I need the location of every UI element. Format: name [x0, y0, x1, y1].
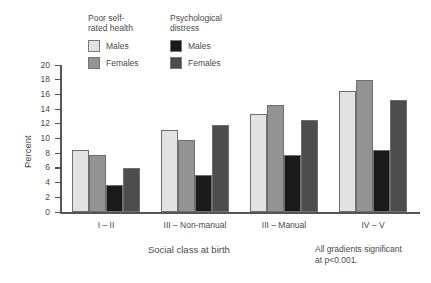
y-axis-tick [55, 65, 60, 66]
y-axis-tick-label: 18 [34, 75, 50, 84]
legend-swatch-psy-males [170, 40, 182, 52]
bar [89, 155, 106, 212]
bar [161, 130, 178, 212]
y-axis-tick [55, 212, 60, 213]
bar [373, 150, 390, 212]
y-axis-line [60, 65, 62, 213]
x-axis-title: Social class at birth [148, 244, 230, 255]
y-axis-tick [55, 167, 60, 168]
y-axis-tick-label: 14 [34, 105, 50, 114]
bar [356, 80, 373, 212]
bar [178, 140, 195, 212]
y-axis-tick [55, 182, 60, 183]
legend-entry-psy-males: Males [170, 39, 222, 52]
legend-label-srh-females: Females [106, 57, 139, 69]
y-axis-tick-label: 8 [34, 149, 50, 158]
y-axis-tick [55, 197, 60, 198]
bar [106, 185, 123, 212]
y-axis-tick [55, 94, 60, 95]
y-axis-tick-label: 16 [34, 90, 50, 99]
legend-swatch-psy-females [170, 57, 182, 69]
bar [267, 105, 284, 212]
legend-label-psy-males: Males [188, 40, 211, 52]
y-axis-tick-label: 20 [34, 61, 50, 70]
y-axis-tick [55, 153, 60, 154]
legend-block-psychological-distress: Psychological distress Males Females [170, 14, 222, 73]
y-axis-tick-label: 10 [34, 134, 50, 143]
bar [123, 168, 140, 212]
legend-swatch-srh-males [88, 40, 100, 52]
y-axis-tick-label: 2 [34, 193, 50, 202]
bar [339, 91, 356, 212]
legend-entry-psy-females: Females [170, 56, 222, 69]
x-axis-group-label: IV – V [313, 221, 431, 230]
bar [390, 100, 407, 212]
legend-entry-srh-females: Females [88, 56, 139, 69]
y-axis-tick [55, 109, 60, 110]
bar [250, 114, 267, 212]
bar [284, 155, 301, 212]
y-axis-tick [55, 123, 60, 124]
legend-block-poor-self-rated-health: Poor self- rated health Males Females [88, 14, 139, 73]
legend-title-psychological-distress: Psychological distress [170, 14, 222, 33]
bar-chart: Poor self- rated health Males Females Ps… [0, 0, 431, 283]
x-axis-line [60, 212, 420, 214]
y-axis-tick-label: 4 [34, 178, 50, 187]
legend-title-poor-self-rated-health: Poor self- rated health [88, 14, 139, 33]
y-axis-tick [55, 138, 60, 139]
legend-label-psy-females: Females [188, 57, 221, 69]
y-axis-tick-label: 12 [34, 119, 50, 128]
y-axis-tick-label: 0 [34, 208, 50, 217]
legend-label-srh-males: Males [106, 40, 129, 52]
legend-entry-srh-males: Males [88, 39, 139, 52]
y-axis-tick-label: 6 [34, 163, 50, 172]
bar [195, 175, 212, 212]
y-axis-tick [55, 79, 60, 80]
bar [212, 125, 229, 212]
significance-footnote: All gradients significant at p<0.001. [315, 244, 402, 265]
y-axis-title: Percent [22, 135, 33, 168]
legend-swatch-srh-females [88, 57, 100, 69]
bar [72, 150, 89, 212]
bar [301, 120, 318, 212]
